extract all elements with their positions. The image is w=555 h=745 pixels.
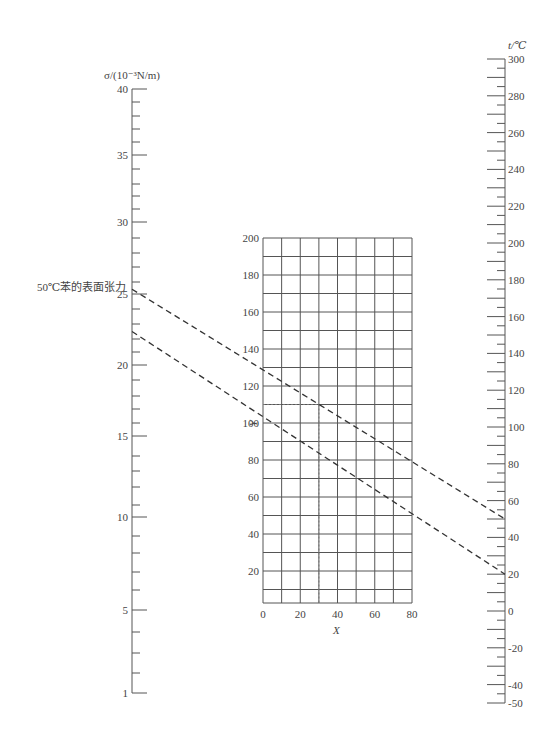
right-axis-title: t/℃ xyxy=(508,40,526,51)
svg-text:260: 260 xyxy=(508,127,525,139)
svg-text:40: 40 xyxy=(248,528,260,540)
svg-text:120: 120 xyxy=(243,380,260,392)
nomograph-chart: 4035302520151051 30028026024022020018016… xyxy=(0,0,555,745)
svg-text:220: 220 xyxy=(508,200,525,212)
guide-lines xyxy=(263,405,319,604)
svg-text:240: 240 xyxy=(508,163,525,175)
svg-text:40: 40 xyxy=(508,531,520,543)
svg-text:60: 60 xyxy=(248,491,260,503)
svg-text:0: 0 xyxy=(508,605,514,617)
svg-text:300: 300 xyxy=(508,53,525,65)
svg-text:100: 100 xyxy=(508,421,525,433)
left-axis-title: σ/(10⁻³N/m) xyxy=(104,70,160,81)
sigma-axis: 4035302520151051 xyxy=(117,83,147,699)
svg-text:80: 80 xyxy=(508,458,520,470)
svg-text:180: 180 xyxy=(508,274,525,286)
svg-text:40: 40 xyxy=(117,83,129,95)
svg-text:-40: -40 xyxy=(508,679,523,691)
svg-text:-20: -20 xyxy=(508,642,523,654)
svg-text:140: 140 xyxy=(243,343,260,355)
annotation-label: 50℃苯的表面张力 xyxy=(37,282,126,293)
svg-text:280: 280 xyxy=(508,90,525,102)
grid-x-title: X xyxy=(333,625,340,636)
svg-text:35: 35 xyxy=(117,149,129,161)
svg-text:80: 80 xyxy=(407,608,419,620)
svg-text:60: 60 xyxy=(508,495,520,507)
svg-text:200: 200 xyxy=(508,237,525,249)
svg-text:80: 80 xyxy=(248,454,260,466)
svg-text:20: 20 xyxy=(117,359,129,371)
xy-grid: 20406080100120140160180200020406080 xyxy=(243,232,419,620)
svg-text:20: 20 xyxy=(508,568,520,580)
svg-text:30: 30 xyxy=(117,216,129,228)
svg-text:0: 0 xyxy=(260,608,266,620)
svg-text:200: 200 xyxy=(243,232,260,244)
svg-text:20: 20 xyxy=(295,608,307,620)
svg-text:10: 10 xyxy=(117,511,129,523)
svg-text:160: 160 xyxy=(508,311,525,323)
grid-y-title: Y xyxy=(248,420,259,426)
svg-text:-50: -50 xyxy=(508,697,523,709)
svg-text:120: 120 xyxy=(508,384,525,396)
svg-text:40: 40 xyxy=(332,608,344,620)
svg-text:140: 140 xyxy=(508,347,525,359)
svg-text:20: 20 xyxy=(248,565,260,577)
svg-text:15: 15 xyxy=(117,430,129,442)
svg-text:60: 60 xyxy=(369,608,381,620)
temperature-axis: 3002802602402202001801601401201008060402… xyxy=(487,53,525,709)
svg-text:1: 1 xyxy=(123,687,129,699)
svg-text:180: 180 xyxy=(243,269,260,281)
svg-text:160: 160 xyxy=(243,306,260,318)
svg-text:5: 5 xyxy=(123,604,129,616)
